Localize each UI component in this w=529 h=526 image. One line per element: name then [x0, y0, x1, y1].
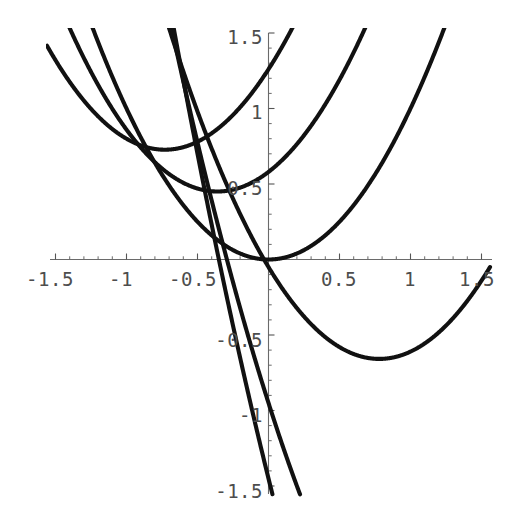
y-tick-label-1: 1: [251, 101, 263, 123]
plot-figure: -1.5 -1 -0.5 0.5 1 1.5 1.5 1 0.5 -0.5 -1…: [0, 0, 529, 526]
x-tick-label-1: 1: [404, 268, 416, 290]
x-tick-label-0.5: 0.5: [321, 268, 357, 290]
y-tick-label-0.5: 0.5: [227, 177, 263, 199]
y-tick-label--1: -1: [239, 404, 263, 426]
axes-group: [50, 33, 492, 494]
x-tick-label--0.5: -0.5: [169, 268, 217, 290]
y-tick-label--0.5: -0.5: [215, 329, 263, 351]
x-tick-label-1.5: 1.5: [459, 268, 495, 290]
y-tick-label-1.5: 1.5: [227, 26, 263, 48]
plot-canvas: [0, 0, 529, 526]
x-tick-label--1: -1: [109, 268, 133, 290]
y-tick-label--1.5: -1.5: [215, 480, 263, 502]
x-tick-label--1.5: -1.5: [26, 268, 74, 290]
